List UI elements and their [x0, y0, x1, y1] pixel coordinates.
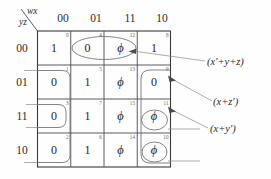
cell-index: 3 — [66, 100, 69, 106]
row-headers: 00 01 11 10 — [16, 42, 28, 156]
arrow-head-annot-2 — [168, 76, 176, 83]
cell-index: 7 — [99, 100, 102, 106]
kmap-row-01: 1 0 5 1 13 ϕ 9 0 — [51, 66, 169, 89]
cell-value: 0 — [151, 75, 157, 89]
cell-value: 1 — [51, 41, 57, 55]
arrow-head-annot-3 — [168, 107, 176, 114]
cell-value: ϕ — [117, 75, 124, 89]
kmap-row-00: 0 1 4 0 12 ϕ 8 1 — [51, 32, 169, 55]
karnaugh-map-canvas: wx yz 00 01 11 10 00 01 11 10 — [0, 0, 271, 179]
annotation-label-2: (x+z′) — [213, 96, 239, 108]
cell-index: 8 — [166, 32, 169, 38]
cell-value: 0 — [85, 41, 91, 55]
cell-value: 0 — [51, 75, 57, 89]
leader-line-annot-3 — [172, 110, 208, 128]
leader-line-annot-1 — [133, 51, 205, 61]
cell-value: 1 — [151, 41, 157, 55]
cell-index: 5 — [99, 66, 102, 72]
group-left-column — [24, 71, 70, 163]
cell-index: 9 — [166, 66, 169, 72]
annotation-label-1: (x′+y+z) — [207, 56, 244, 68]
column-header-1: 01 — [90, 12, 102, 24]
annotation-labels: (x′+y+z) (x+z′) (x+y′) — [207, 56, 244, 135]
cell-value: 1 — [85, 143, 91, 157]
cell-index: 11 — [164, 100, 169, 106]
cell-index: 2 — [66, 134, 69, 140]
axis-label-corner: wx yz — [18, 6, 38, 31]
left-variable-label: yz — [18, 17, 27, 27]
cell-value: ϕ — [151, 109, 158, 123]
cell-index: 14 — [130, 134, 136, 140]
cell-value: 0 — [51, 143, 57, 157]
row-header-3: 10 — [16, 144, 28, 156]
cell-value: ϕ — [117, 41, 124, 55]
cell-value: ϕ — [117, 143, 124, 157]
karnaugh-map-figure: wx yz 00 01 11 10 00 01 11 10 — [0, 0, 271, 179]
cell-value: 0 — [51, 109, 57, 123]
top-variable-label: wx — [27, 6, 38, 16]
kmap-row-11: 3 0 7 1 15 ϕ 11 ϕ — [51, 100, 169, 123]
cell-index: 6 — [99, 134, 102, 140]
row-header-0: 00 — [16, 42, 28, 54]
column-header-0: 00 — [57, 12, 69, 24]
cell-value: 1 — [85, 109, 91, 123]
row-header-2: 11 — [16, 110, 27, 122]
cell-value: ϕ — [117, 109, 124, 123]
cell-index: 0 — [66, 32, 69, 38]
column-header-2: 11 — [124, 12, 135, 24]
cell-index: 12 — [130, 32, 136, 38]
column-header-3: 10 — [156, 12, 168, 24]
cell-value: 1 — [85, 75, 91, 89]
cell-index: 10 — [163, 134, 169, 140]
cell-index: 13 — [130, 66, 136, 72]
annotation-label-3: (x+y′) — [210, 123, 236, 135]
row-header-1: 01 — [16, 76, 28, 88]
cell-index: 4 — [99, 32, 102, 38]
column-headers: 00 01 11 10 — [57, 12, 168, 24]
kmap-row-10: 2 0 6 1 14 ϕ 10 ϕ — [51, 134, 169, 157]
leader-line-annot-2 — [172, 79, 212, 101]
cell-index: 15 — [130, 100, 136, 106]
cell-value: ϕ — [151, 143, 158, 157]
